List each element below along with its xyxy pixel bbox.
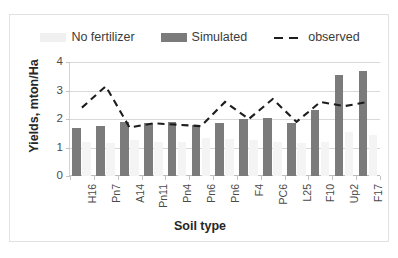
y-tick-label: 2: [23, 112, 69, 124]
y-tick-label: 3: [23, 84, 69, 96]
x-tick-mark: [189, 176, 190, 180]
plot-area: 01234 H16Pn7A14Pn11Pn4Pn6Pn6F4PC6L25F10U…: [69, 62, 380, 176]
chart-legend: No fertilizer Simulated observed: [10, 27, 390, 47]
x-tick-label: Pn7: [110, 184, 122, 203]
x-tick-label: Pn6: [205, 184, 217, 203]
x-tick-mark: [142, 176, 143, 180]
x-tick-mark: [94, 176, 95, 180]
x-tick-label: H16: [86, 184, 98, 203]
x-tick-mark: [237, 176, 238, 180]
x-tick-mark: [332, 176, 333, 180]
legend-swatch-no-fertilizer: [40, 33, 66, 42]
y-tick-label: 1: [23, 141, 69, 153]
x-tick-label: F10: [324, 184, 336, 202]
x-tick-mark: [308, 176, 309, 180]
x-tick-label: F4: [253, 184, 265, 196]
x-tick-mark: [118, 176, 119, 180]
observed-line-series: [70, 62, 380, 176]
x-tick-mark: [70, 176, 71, 180]
legend-swatch-simulated: [161, 33, 187, 42]
x-tick-mark: [165, 176, 166, 180]
x-tick-mark: [380, 176, 381, 180]
x-tick-mark: [261, 176, 262, 180]
x-tick-label: Pn4: [181, 184, 193, 203]
x-axis-title: Soil type: [10, 219, 390, 233]
legend-label-simulated: Simulated: [192, 30, 248, 44]
observed-line: [82, 86, 368, 127]
legend-label-no-fertilizer: No fertilizer: [71, 30, 134, 44]
x-tick-mark: [285, 176, 286, 180]
legend-item-simulated: Simulated: [161, 30, 248, 44]
y-tick-label: 0: [23, 169, 69, 181]
legend-dash-observed: [273, 33, 303, 42]
legend-item-observed: observed: [273, 30, 359, 44]
y-tick-label: 4: [23, 55, 69, 67]
x-tick-label: Up2: [348, 184, 360, 203]
x-tick-label: PC6: [277, 184, 289, 204]
x-tick-label: A14: [134, 184, 146, 203]
x-tick-mark: [356, 176, 357, 180]
x-tick-mark: [213, 176, 214, 180]
legend-item-no-fertilizer: No fertilizer: [40, 30, 134, 44]
x-tick-label: L25: [301, 184, 313, 202]
legend-label-observed: observed: [308, 30, 359, 44]
x-tick-label: F17: [372, 184, 384, 202]
chart-container: No fertilizer Simulated observed Yields,…: [9, 14, 389, 242]
x-tick-label: Pn11: [157, 184, 169, 208]
x-tick-label: Pn6: [229, 184, 241, 203]
